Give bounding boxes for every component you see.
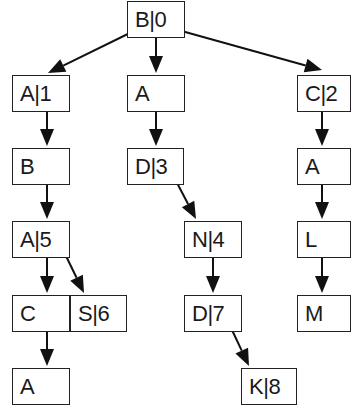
node-label: A|5 <box>20 227 51 253</box>
arrowhead-icon <box>304 59 322 72</box>
edges-layer <box>0 0 364 415</box>
trie-node: L <box>297 221 351 258</box>
trie-diagram: B|0A|1AC|2BD|3AA|5N|4LCS|6D|7MAK|8 <box>0 0 364 415</box>
arrowhead-icon <box>149 129 163 146</box>
arrowhead-icon <box>40 349 54 366</box>
trie-node: A|5 <box>12 221 70 258</box>
node-label: A <box>20 374 34 400</box>
trie-node: A|1 <box>12 75 70 112</box>
trie-node: K|8 <box>241 368 297 405</box>
arrowhead-icon <box>182 201 196 219</box>
edge-arrow <box>176 181 196 219</box>
arrowhead-icon <box>315 276 329 293</box>
node-label: S|6 <box>78 301 109 327</box>
node-label: C|2 <box>305 81 337 107</box>
node-label: M <box>305 301 323 327</box>
edge-arrow <box>66 256 84 293</box>
node-label: A <box>305 154 319 180</box>
trie-node: N|4 <box>184 221 242 258</box>
trie-node: S|6 <box>70 295 127 332</box>
node-label: N|4 <box>192 227 224 253</box>
arrowhead-icon <box>315 202 329 219</box>
node-label: B|0 <box>135 7 166 33</box>
edge-arrow <box>178 30 322 72</box>
edge-arrow <box>232 330 249 366</box>
trie-node: A <box>12 368 70 405</box>
trie-node: M <box>297 295 351 332</box>
arrowhead-icon <box>149 56 163 73</box>
trie-node: B|0 <box>127 1 185 38</box>
arrowhead-icon <box>315 129 329 146</box>
trie-node: C <box>12 295 70 332</box>
node-label: A|1 <box>20 81 51 107</box>
node-label: A <box>135 81 149 107</box>
node-label: K|8 <box>249 374 280 400</box>
trie-node: D|3 <box>127 148 184 185</box>
arrowhead-icon <box>40 129 54 146</box>
edge-arrow <box>315 181 329 219</box>
edge-arrow <box>315 254 329 293</box>
arrowhead-icon <box>40 276 54 293</box>
node-label: D|7 <box>192 301 224 327</box>
node-label: C <box>20 301 35 327</box>
trie-node: A <box>127 75 185 112</box>
arrowhead-icon <box>40 202 54 219</box>
trie-node: C|2 <box>297 75 351 112</box>
node-label: B <box>20 154 34 180</box>
trie-node: A <box>297 148 351 185</box>
node-label: L <box>305 227 317 253</box>
trie-node: D|7 <box>184 295 242 332</box>
arrowhead-icon <box>206 276 220 293</box>
edge-arrow <box>40 331 54 366</box>
node-label: D|3 <box>135 154 167 180</box>
trie-node: B <box>12 148 70 185</box>
